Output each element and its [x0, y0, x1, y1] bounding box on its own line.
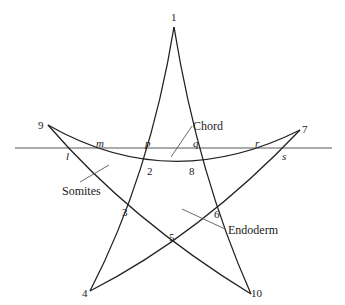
- curve-9-to-7: [48, 125, 300, 161]
- vertex-label-7: 7: [302, 124, 308, 135]
- somites-label: Somites: [62, 185, 101, 197]
- chord-leader-line: [171, 126, 192, 157]
- chord-label: Chord: [193, 120, 223, 132]
- point-label-6: 6: [214, 209, 220, 220]
- point-label-8: 8: [189, 166, 195, 177]
- vertex-label-9: 9: [38, 120, 44, 131]
- vertex-label-1: 1: [171, 12, 177, 23]
- somites-leader-line: [80, 165, 109, 182]
- point-label-2: 2: [147, 166, 153, 177]
- vertex-label-10: 10: [251, 288, 262, 299]
- vertex-label-4: 4: [82, 288, 88, 299]
- point-label-5: 5: [169, 232, 175, 243]
- section-label-m: m: [96, 138, 104, 149]
- section-label-p: p: [145, 138, 151, 149]
- section-label-s: s: [282, 151, 286, 162]
- point-label-3: 3: [122, 207, 128, 218]
- section-label-q: q: [193, 138, 199, 149]
- embryo-star-diagram: 1 9 7 4 10 2 8 3 5 6 l m p q r s Chord S…: [0, 0, 345, 305]
- curve-1-to-4: [90, 27, 174, 291]
- section-label-r: r: [255, 138, 259, 149]
- curve-9-to-10: [48, 125, 251, 294]
- endoderm-label: Endoderm: [228, 224, 278, 236]
- diagram-drawing: [0, 0, 345, 305]
- section-label-l: l: [66, 151, 69, 162]
